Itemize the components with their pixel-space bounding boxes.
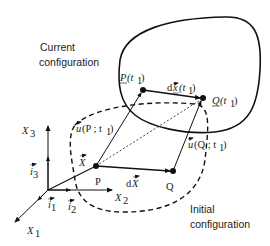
current-configuration-label-line1: Current	[40, 41, 75, 53]
svg-text:3: 3	[30, 128, 35, 139]
svg-text:): )	[141, 72, 145, 84]
svg-text:P: P	[119, 72, 127, 83]
svg-text:X: X	[26, 225, 34, 236]
position-vector-X	[48, 167, 94, 190]
label-dX: d X	[126, 176, 139, 189]
svg-text:): )	[234, 95, 238, 107]
displacement-vector-uP	[96, 93, 141, 166]
svg-text:(t: (t	[220, 95, 227, 107]
label-Q: Q	[166, 181, 174, 192]
current-configuration-label-line2: configuration	[39, 56, 99, 68]
label-displacement-uP: u (P ; t 1 )	[76, 122, 114, 137]
x1-axis-label: X 1	[26, 225, 40, 239]
svg-text:X: X	[131, 178, 139, 189]
svg-text:(Q ; t: (Q ; t	[194, 139, 216, 151]
point-Q	[170, 168, 176, 174]
svg-text:X: X	[21, 125, 29, 136]
i2-label: i 2	[68, 200, 76, 215]
point-P-t1	[140, 87, 146, 93]
label-vector-X: X	[78, 155, 86, 168]
svg-text:(P ; t: (P ; t	[82, 123, 102, 135]
svg-text:3: 3	[33, 169, 38, 180]
label-P: P	[95, 176, 101, 187]
initial-configuration-boundary	[70, 103, 207, 212]
svg-text:): )	[192, 82, 196, 94]
svg-text:): )	[223, 139, 227, 151]
material-line-element-dX	[96, 166, 170, 171]
svg-text:1: 1	[51, 202, 56, 213]
initial-configuration-label-line2: configuration	[190, 218, 250, 230]
x3-axis-label: X 3	[21, 125, 35, 139]
svg-text:(t: (t	[179, 82, 186, 94]
svg-text:2: 2	[123, 195, 128, 206]
svg-text:(t: (t	[127, 72, 134, 84]
svg-text:X: X	[114, 192, 122, 203]
kinematics-diagram: Current configuration Initial configurat…	[0, 0, 270, 246]
point-Q-t1	[200, 95, 206, 101]
svg-text:u: u	[76, 123, 81, 134]
svg-text:u: u	[188, 139, 193, 150]
point-P	[93, 163, 99, 169]
label-P-t1: P (t 1 )	[119, 72, 145, 86]
svg-text:): )	[110, 123, 114, 135]
i3-label: i 3	[30, 164, 38, 180]
displacement-vector-uQ	[173, 101, 201, 171]
i1-unit-vector	[38, 190, 48, 200]
svg-text:X: X	[78, 157, 86, 168]
svg-text:Q: Q	[212, 95, 220, 106]
label-Q-t1: Q (t 1 )	[212, 95, 238, 109]
svg-text:2: 2	[71, 204, 76, 215]
i1-label: i 1	[48, 198, 56, 213]
initial-configuration-label-line1: Initial	[190, 203, 215, 215]
label-displacement-uQ: u (Q ; t 1 )	[188, 138, 227, 153]
svg-text:1: 1	[35, 228, 40, 239]
x2-axis-label: X 2	[114, 192, 128, 206]
